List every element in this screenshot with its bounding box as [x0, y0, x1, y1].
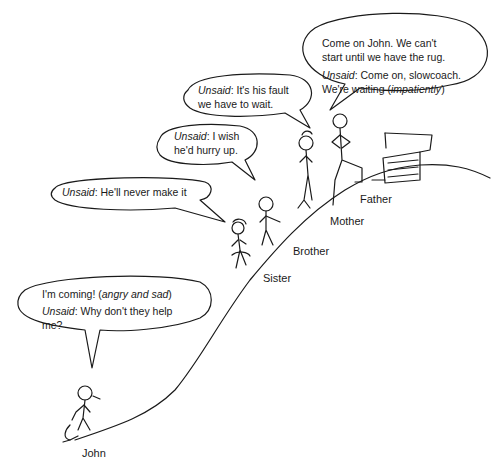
mother-figure — [298, 131, 313, 208]
father-figure — [332, 114, 362, 205]
father-unsaid-prefix: Unsaid — [322, 69, 355, 81]
brother-bubble-text: Unsaid: I wish he'd hurry up. — [174, 129, 239, 157]
mother-unsaid-line1: : It's his fault — [231, 84, 289, 96]
label-brother: Brother — [293, 245, 329, 257]
john-unsaid-prefix: Unsaid — [42, 305, 75, 317]
sister-unsaid-prefix: Unsaid — [62, 186, 95, 198]
john-said-a: I'm coming! ( — [42, 288, 102, 300]
father-unsaid-line1: : Come on, slowcoach. — [355, 69, 461, 81]
john-said-b: ) — [168, 288, 172, 300]
father-unsaid-line2a: We're waiting ( — [322, 83, 391, 95]
brother-unsaid-line2: he'd hurry up. — [174, 143, 239, 157]
brother-unsaid-prefix: Unsaid — [174, 130, 207, 142]
mother-unsaid-line2: we have to wait. — [198, 97, 289, 111]
father-bubble-text: Come on John. We can't start until we ha… — [322, 36, 461, 96]
mother-bubble-text: Unsaid: It's his fault we have to wait. — [198, 83, 289, 111]
john-unsaid-line2: me? — [42, 318, 172, 332]
john-emotion: angry and sad — [102, 288, 169, 300]
father-said-line2: start until we have the rug. — [322, 50, 461, 64]
sister-unsaid-line1: : He'll never make it — [95, 186, 187, 198]
label-john: John — [82, 447, 106, 459]
father-emotion: impatiently — [391, 83, 441, 95]
sister-figure — [232, 219, 250, 268]
rolled-rug — [372, 133, 432, 183]
brother-unsaid-line1: : I wish — [207, 130, 240, 142]
label-father: Father — [360, 193, 392, 205]
mother-unsaid-prefix: Unsaid — [198, 84, 231, 96]
father-unsaid-line2b: ) — [441, 83, 445, 95]
john-unsaid-line1: : Why don't they help — [75, 305, 173, 317]
sister-bubble-text: Unsaid: He'll never make it — [62, 185, 187, 199]
label-sister: Sister — [263, 272, 291, 284]
brother-figure — [259, 197, 280, 245]
father-said-line1: Come on John. We can't — [322, 36, 461, 50]
label-mother: Mother — [330, 215, 364, 227]
john-bubble-text: I'm coming! (angry and sad) Unsaid: Why … — [42, 287, 172, 332]
